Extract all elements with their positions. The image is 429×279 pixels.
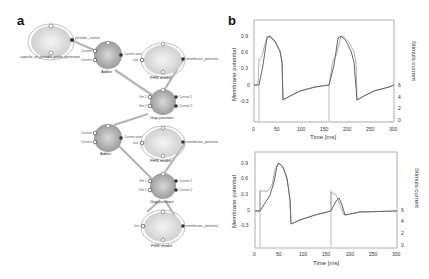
svg-text:6: 6 [398, 82, 401, 88]
svg-text:0: 0 [401, 242, 404, 248]
svg-text:150: 150 [322, 251, 331, 257]
svg-text:0.9: 0.9 [241, 160, 248, 166]
svg-text:0: 0 [253, 251, 256, 257]
svg-text:4: 4 [401, 218, 404, 224]
svg-text:6: 6 [401, 207, 404, 213]
xlabel-top: Time [ms] [310, 134, 336, 140]
svg-text:-0.3: -0.3 [240, 98, 249, 104]
svg-text:4: 4 [398, 94, 401, 100]
svg-text:-0.3: -0.3 [240, 222, 249, 228]
svg-text:100: 100 [299, 251, 308, 257]
chart-top: 0.9 0.6 0.3 0 -0.3 6 4 2 0 0 50 100 150 … [0, 0, 429, 279]
svg-text:200: 200 [343, 126, 352, 132]
svg-text:0: 0 [398, 117, 401, 123]
y2label-bottom: Stimuls current [414, 168, 420, 208]
svg-text:250: 250 [369, 251, 378, 257]
ylabel-top: Membrane potential [231, 48, 237, 101]
svg-text:100: 100 [297, 126, 306, 132]
ylabel-bottom: Membrane potential [231, 175, 237, 228]
svg-text:0: 0 [252, 126, 255, 132]
svg-text:0.3: 0.3 [241, 191, 248, 197]
svg-text:300: 300 [389, 126, 398, 132]
svg-text:0.3: 0.3 [241, 65, 248, 71]
svg-text:2: 2 [401, 230, 404, 236]
svg-text:200: 200 [346, 251, 355, 257]
svg-text:150: 150 [320, 126, 329, 132]
svg-text:0: 0 [247, 82, 250, 88]
svg-text:50: 50 [276, 251, 282, 257]
svg-text:50: 50 [274, 126, 280, 132]
xlabel-bottom: Time [ms] [313, 260, 339, 266]
svg-text:0.6: 0.6 [241, 49, 248, 55]
svg-text:2: 2 [398, 105, 401, 111]
svg-text:0.9: 0.9 [241, 33, 248, 39]
svg-text:300: 300 [392, 251, 401, 257]
svg-text:0.6: 0.6 [241, 175, 248, 181]
svg-text:0: 0 [247, 207, 250, 213]
svg-text:250: 250 [366, 126, 375, 132]
y2label-top: Stimuls current [411, 41, 417, 81]
